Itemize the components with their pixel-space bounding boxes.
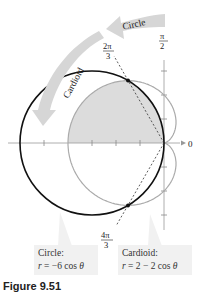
- circle-equation-box: Circle: r = −6 cos θ: [34, 245, 98, 275]
- polar-axis-arrowhead: [181, 141, 186, 146]
- pi-over-2-num: π: [160, 31, 165, 41]
- cardioid-box-title: Cardioid:: [122, 247, 188, 260]
- circle-box-title: Circle:: [38, 247, 94, 260]
- pi-over-2-den: 2: [160, 41, 164, 51]
- intersection-point-upper: [126, 79, 130, 83]
- angle-label-4pi3-num: 4π: [101, 230, 110, 240]
- shaded-region-precise: [68, 81, 164, 143]
- ray-4pi-3: [116, 143, 164, 226]
- cardioid-box-equation: r = 2 − 2 cos θ: [122, 260, 188, 273]
- polar-axis-zero-label: 0: [188, 139, 193, 149]
- angle-label-2pi3-den: 3: [106, 51, 110, 61]
- figure-caption: Figure 9.51: [3, 280, 61, 292]
- angle-label-4pi3-den: 3: [104, 240, 108, 250]
- circle-label-pointer: [58, 212, 72, 246]
- circle-arrow-label: Circle: [121, 17, 146, 32]
- circle-box-equation: r = −6 cos θ: [38, 260, 94, 273]
- intersection-point-lower: [126, 203, 130, 207]
- angle-label-2pi3-num: 2π: [103, 41, 112, 51]
- cardioid-label-pointer: [148, 214, 162, 246]
- cardioid-equation-box: Cardioid: r = 2 − 2 cos θ: [118, 245, 192, 275]
